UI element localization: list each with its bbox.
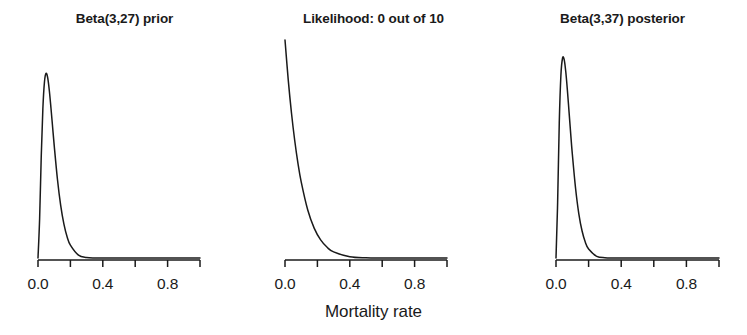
bayesian-update-figure: Beta(3,27) prior 0.00.40.8 Likelihood: 0…	[0, 0, 747, 335]
axis-group-posterior	[556, 260, 719, 267]
axis-svg-posterior	[498, 258, 747, 276]
tick-label: 0.0	[28, 275, 49, 293]
x-axis-likelihood: 0.00.40.8	[249, 258, 498, 300]
tick-label: 0.8	[157, 275, 178, 293]
tick-label: 0.4	[611, 275, 632, 293]
curve-svg-likelihood	[249, 30, 498, 270]
panel-title-prior: Beta(3,27) prior	[0, 11, 249, 26]
density-curve-prior	[38, 73, 200, 258]
x-axis-posterior: 0.00.40.8	[498, 258, 747, 300]
tick-labels-likelihood: 0.00.40.8	[249, 275, 498, 299]
tick-label: 0.4	[339, 275, 360, 293]
curve-svg-posterior	[498, 30, 747, 270]
tick-labels-prior: 0.00.40.8	[0, 275, 249, 299]
tick-label: 0.0	[546, 275, 567, 293]
panel-row: Beta(3,27) prior 0.00.40.8 Likelihood: 0…	[0, 0, 747, 300]
plot-area-posterior	[498, 30, 747, 270]
tick-labels-posterior: 0.00.40.8	[498, 275, 747, 299]
tick-label: 0.4	[92, 275, 113, 293]
x-axis-label: Mortality rate	[0, 302, 747, 322]
plot-area-likelihood	[249, 30, 498, 270]
curve-svg-prior	[0, 30, 249, 270]
axis-svg-likelihood	[249, 258, 498, 276]
tick-label: 0.8	[676, 275, 697, 293]
panel-likelihood: Likelihood: 0 out of 10 0.00.40.8	[249, 0, 498, 300]
panel-prior: Beta(3,27) prior 0.00.40.8	[0, 0, 249, 300]
axis-group-likelihood	[285, 260, 447, 267]
density-curve-posterior	[556, 57, 719, 258]
panel-title-posterior: Beta(3,37) posterior	[498, 11, 747, 26]
axis-group-prior	[38, 260, 200, 267]
plot-area-prior	[0, 30, 249, 270]
density-curve-likelihood	[285, 40, 447, 258]
tick-label: 0.8	[404, 275, 425, 293]
panel-posterior: Beta(3,37) posterior 0.00.40.8	[498, 0, 747, 300]
x-axis-prior: 0.00.40.8	[0, 258, 249, 300]
panel-title-likelihood: Likelihood: 0 out of 10	[249, 11, 498, 26]
axis-svg-prior	[0, 258, 249, 276]
tick-label: 0.0	[275, 275, 296, 293]
